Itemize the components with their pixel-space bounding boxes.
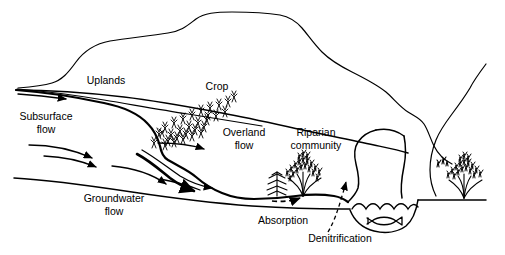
crop-field-icon <box>151 91 237 150</box>
label-riparian-community-line1: Riparian <box>296 126 335 138</box>
conifer-tree-icon <box>267 172 287 196</box>
label-overland-flow-line2: flow <box>235 139 254 151</box>
label-absorption: Absorption <box>258 214 308 226</box>
valley-floor-vegetation-icon <box>437 157 448 167</box>
label-groundwater-flow-line1: Groundwater <box>84 192 145 204</box>
groundwater-boundary <box>14 178 350 209</box>
water-wave-icon <box>352 204 418 209</box>
landscape-cross-section-diagram: Uplands Subsurface flow Crop Overland fl… <box>0 0 505 255</box>
label-crop: Crop <box>206 80 229 92</box>
fish-icon <box>367 217 402 225</box>
diagram-canvas: Uplands Subsurface flow Crop Overland fl… <box>0 0 505 255</box>
label-groundwater-flow-line2: flow <box>105 205 124 217</box>
label-overland-flow-line1: Overland <box>223 126 266 138</box>
groundwater-flow-arrow-1 <box>29 145 92 158</box>
upland-soil-surface <box>16 90 408 153</box>
riparian-shrub-icon <box>286 150 322 196</box>
groundwater-flow-arrow-2 <box>44 156 96 167</box>
label-denitrification: Denitrification <box>308 232 372 244</box>
label-subsurface-flow-line2: flow <box>37 123 56 135</box>
label-uplands: Uplands <box>87 74 126 86</box>
label-riparian-community-line2: community <box>291 139 343 151</box>
label-subsurface-flow-line1: Subsurface <box>19 110 72 122</box>
denitrification-dashed-arrow <box>328 182 346 232</box>
riparian-shrub-icon <box>447 152 483 198</box>
